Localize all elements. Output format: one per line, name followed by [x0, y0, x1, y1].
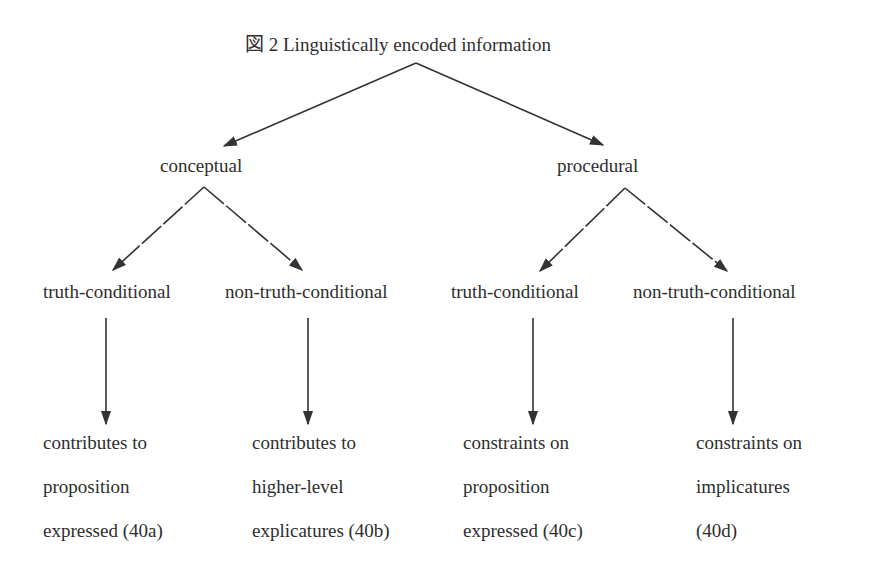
- edge-root-procedural: [416, 63, 603, 145]
- leaf-40b: contributes to higher-level explicatures…: [252, 421, 390, 553]
- edge-root-conceptual: [224, 63, 416, 146]
- leaf-40c-line1: constraints on: [463, 421, 583, 465]
- figure-title: 図 2 Linguistically encoded information: [245, 34, 551, 56]
- edge-procedural-truth: [540, 188, 625, 271]
- leaf-40d-line3: (40d): [696, 509, 802, 553]
- leaf-40a-line1: contributes to: [43, 421, 163, 465]
- node-conceptual-truth-conditional: truth-conditional: [43, 281, 171, 303]
- leaf-40b-line3: explicatures (40b): [252, 509, 390, 553]
- edge-conceptual-truth: [113, 187, 204, 270]
- node-procedural-non-truth-conditional: non-truth-conditional: [633, 281, 796, 303]
- node-procedural-truth-conditional: truth-conditional: [451, 281, 579, 303]
- node-conceptual-non-truth-conditional: non-truth-conditional: [225, 281, 388, 303]
- leaf-40c-line3: expressed (40c): [463, 509, 583, 553]
- leaf-40a: contributes to proposition expressed (40…: [43, 421, 163, 553]
- leaf-40c: constraints on proposition expressed (40…: [463, 421, 583, 553]
- leaf-40a-line3: expressed (40a): [43, 509, 163, 553]
- leaf-40d: constraints on implicatures (40d): [696, 421, 802, 553]
- leaf-40b-line2: higher-level: [252, 465, 390, 509]
- leaf-40d-line2: implicatures: [696, 465, 802, 509]
- node-conceptual: conceptual: [160, 155, 242, 177]
- leaf-40d-line1: constraints on: [696, 421, 802, 465]
- leaf-40b-line1: contributes to: [252, 421, 390, 465]
- leaf-40a-line2: proposition: [43, 465, 163, 509]
- leaf-40c-line2: proposition: [463, 465, 583, 509]
- edge-conceptual-nontruth: [204, 187, 302, 270]
- edge-procedural-nontruth: [625, 188, 727, 271]
- node-procedural: procedural: [557, 155, 638, 177]
